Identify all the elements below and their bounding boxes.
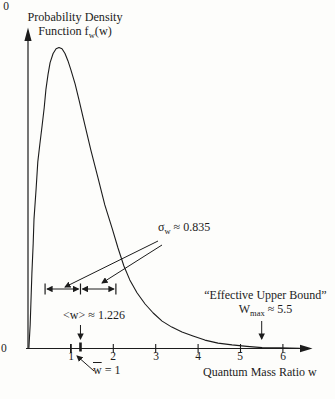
chart-title-line2: Function fw(w) [25,24,125,38]
x-axis-arrowhead [300,345,313,352]
x-tick-label-4: 4 [188,350,208,362]
upper-bound-line1: “Effective Upper Bound” [196,288,335,302]
plot-canvas [0,0,335,399]
x-tick-label-3: 3 [146,350,166,362]
x-axis-title: Quantum Mass Ratio w [203,365,317,379]
x-tick-label-2: 2 [103,350,123,362]
upper-bound-line2: Wmax ≈ 5.5 [196,302,335,316]
chart-title-line1: Probability Density [25,10,125,24]
wbar-annotation-label: w = 1 [93,363,120,377]
sigma-annotation-label: σw ≈ 0.835 [158,220,210,234]
upper-bound-annotation: “Effective Upper Bound” Wmax ≈ 5.5 [196,288,335,316]
x-tick-label-5: 5 [230,350,250,362]
pdf-figure: Probability Density Function fw(w) σw ≈ … [0,0,335,399]
chart-title: Probability Density Function fw(w) [25,10,125,38]
y-axis-zero-label: 0 [1,342,7,354]
sigma-leader-arrow-1 [65,241,158,287]
x-tick-label-1: 1 [61,350,81,362]
x-tick-label-6: 6 [273,350,293,362]
mean-annotation-label: <w> ≈ 1.226 [55,308,133,322]
